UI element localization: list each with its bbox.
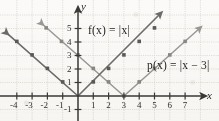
y-tick-label: 1 — [67, 78, 72, 87]
x-tick-label: -1 — [56, 101, 64, 110]
y-axis-name: y — [81, 1, 86, 12]
x-tick-label: 5 — [152, 101, 157, 110]
x-tick-label: 3 — [122, 101, 127, 110]
y-tick-label: 2 — [67, 65, 72, 74]
function-label-f: f(x) = |x| — [88, 25, 130, 37]
label-layer: x y -4 -3 -2 -1 1 2 3 4 5 6 7 5 4 3 2 1 … — [0, 0, 219, 121]
y-tick-label: 4 — [67, 38, 72, 47]
x-tick-label: -2 — [41, 101, 49, 110]
x-tick-label: -4 — [10, 101, 18, 110]
x-tick-label: 2 — [106, 101, 111, 110]
x-tick-label: -3 — [25, 101, 33, 110]
y-tick-label: -1 — [64, 105, 72, 114]
y-tick-label: 3 — [67, 51, 72, 60]
x-axis-name: x — [207, 90, 212, 101]
x-tick-label: 4 — [137, 101, 142, 110]
x-tick-label: 7 — [183, 101, 188, 110]
function-label-p: p(x) = |x − 3| — [147, 60, 210, 72]
graph-figure: x y -4 -3 -2 -1 1 2 3 4 5 6 7 5 4 3 2 1 … — [0, 0, 219, 121]
y-tick-label: 5 — [67, 24, 72, 33]
x-tick-label: 6 — [168, 101, 173, 110]
x-tick-label: 1 — [91, 101, 96, 110]
